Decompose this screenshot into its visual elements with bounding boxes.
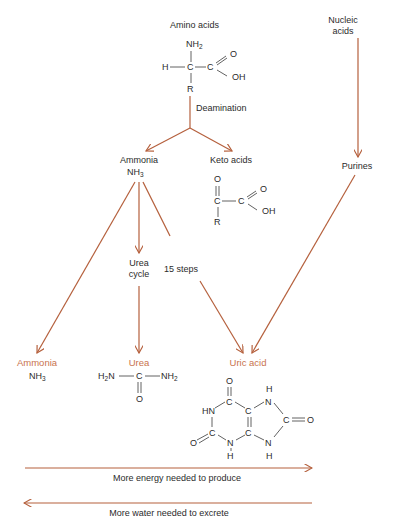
- keto-r: R: [214, 217, 221, 227]
- amino-acids-node: Amino acids NH2 H C C O OH R: [162, 20, 246, 94]
- uric-h-top: H: [266, 384, 273, 394]
- uric-acid-label: Uric acid: [230, 357, 267, 368]
- urea-nh2: NH2: [161, 371, 178, 382]
- bond: [254, 402, 264, 408]
- arrow-ammonia-to-15-steps: [143, 182, 170, 236]
- urea-cycle-label-line2: cycle: [129, 269, 150, 279]
- arrow-to-keto-acids: [190, 128, 232, 151]
- uric-o-left: O: [190, 438, 197, 448]
- amino-o: O: [230, 49, 237, 59]
- uric-o-top: O: [226, 376, 233, 386]
- uric-n-top: N: [265, 397, 272, 407]
- arrow-to-ammonia: [146, 128, 190, 151]
- amino-c1: C: [187, 62, 194, 72]
- arrow-ammonia-to-ammonia: [37, 182, 135, 353]
- keto-o: O: [260, 184, 267, 194]
- bond: [248, 204, 257, 210]
- bond: [235, 402, 245, 408]
- water-scale-label: More water needed to excrete: [109, 508, 229, 518]
- amino-h: H: [162, 62, 169, 72]
- deamination-label: Deamination: [196, 103, 247, 113]
- bond: [274, 403, 283, 414]
- urea-end-node: Urea H2N C NH2 O: [98, 357, 178, 404]
- keto-oh: OH: [262, 206, 276, 216]
- urea-cycle-label-line1: Urea: [129, 258, 149, 268]
- ammonia-end-label: Ammonia: [17, 357, 58, 368]
- bond: [254, 435, 264, 440]
- amino-oh: OH: [232, 72, 246, 82]
- bond: [248, 193, 257, 199]
- purines-label: Purines: [342, 161, 373, 171]
- arrow-15-steps-to-uric-acid: [200, 281, 243, 353]
- bond: [217, 70, 227, 76]
- ammonia-mid-label: Ammonia: [120, 155, 158, 165]
- uric-c-right: C: [283, 415, 290, 425]
- uric-c-left: C: [209, 428, 216, 438]
- urea-h2n: H2N: [98, 371, 115, 382]
- uric-c-mid1: C: [245, 406, 252, 416]
- ammonia-mid-formula: NH3: [127, 167, 144, 178]
- nucleic-acids-label-line1: Nucleic: [328, 15, 358, 25]
- uric-hn: HN: [202, 406, 215, 416]
- ammonia-end-node: Ammonia NH3: [17, 357, 58, 382]
- uric-h-bottom1: H: [227, 451, 234, 461]
- bond: [218, 435, 226, 440]
- uric-acid-node: Uric acid O C HN C O N H C C N H C: [190, 357, 314, 461]
- uric-n-bottom2: N: [265, 438, 272, 448]
- uric-c-top: C: [226, 397, 233, 407]
- urea-end-label: Urea: [129, 357, 150, 368]
- ammonia-end-formula: NH3: [29, 371, 46, 382]
- amino-acids-label: Amino acids: [170, 20, 220, 30]
- arrow-purines-to-uric-acid: [252, 175, 355, 353]
- ammonia-mid-node: Ammonia NH3: [120, 155, 158, 178]
- uric-c-mid2: C: [245, 428, 252, 438]
- keto-c1: C: [214, 196, 221, 206]
- bond: [215, 402, 225, 408]
- nucleic-acids-label-line2: acids: [332, 26, 354, 36]
- keto-o-top: O: [214, 174, 221, 184]
- bond: [247, 191, 256, 197]
- nitrogen-excretion-diagram: Amino acids NH2 H C C O OH R Deamination…: [0, 0, 394, 524]
- urea-c: C: [136, 371, 143, 381]
- amino-nh2: NH2: [186, 39, 203, 50]
- keto-acids-node: Keto acids O C C O OH R: [210, 155, 276, 227]
- energy-scale-label: More energy needed to produce: [113, 473, 241, 483]
- bond: [236, 435, 245, 440]
- uric-h-bottom2: H: [266, 451, 273, 461]
- keto-c2: C: [238, 196, 245, 206]
- keto-acids-label: Keto acids: [210, 155, 253, 165]
- bond: [197, 434, 208, 440]
- uric-o-right: O: [307, 415, 314, 425]
- uric-n-bottom: N: [227, 438, 234, 448]
- bond: [274, 426, 283, 437]
- amino-c2: C: [207, 62, 214, 72]
- fifteen-steps-label: 15 steps: [164, 264, 199, 274]
- urea-o: O: [136, 394, 143, 404]
- amino-r: R: [187, 84, 194, 94]
